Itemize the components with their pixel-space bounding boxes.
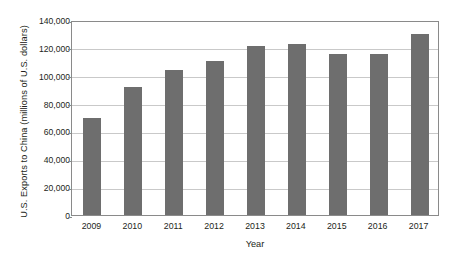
y-axis-tick-label: 140,000 (26, 16, 70, 26)
x-axis-tick-label: 2012 (193, 220, 235, 232)
bar (329, 54, 347, 215)
bars-group (72, 22, 438, 215)
bar (288, 44, 306, 215)
x-axis-tick-label: 2017 (398, 220, 440, 232)
x-axis-tick-labels: 200920102011201220132014201520162017 (71, 220, 439, 234)
x-axis-title: Year (71, 238, 439, 250)
y-axis-tick-labels: 020,00040,00060,00080,000100,000120,0001… (26, 14, 70, 224)
y-axis-tick-label: 60,000 (26, 127, 70, 137)
bar-chart-figure: U.S. Exports to China (millions of U.S. … (0, 0, 460, 265)
plot-area (71, 21, 439, 216)
y-axis-tick-label: 0 (26, 211, 70, 221)
y-axis-tick-label: 100,000 (26, 72, 70, 82)
bar (83, 118, 101, 216)
x-axis-tick-label: 2010 (111, 220, 153, 232)
x-axis-tick-label: 2009 (70, 220, 112, 232)
x-axis-tick-label: 2011 (152, 220, 194, 232)
bar (411, 34, 429, 215)
y-axis-tick-label: 120,000 (26, 44, 70, 54)
x-axis-tick-label: 2014 (275, 220, 317, 232)
x-axis-tick-label: 2015 (316, 220, 358, 232)
bar (247, 46, 265, 215)
bar (124, 87, 142, 215)
bar (165, 70, 183, 215)
y-axis-tick-label: 20,000 (26, 183, 70, 193)
y-axis-tick-mark (68, 217, 72, 218)
bar (370, 54, 388, 215)
y-axis-tick-label: 40,000 (26, 155, 70, 165)
x-axis-tick-label: 2013 (234, 220, 276, 232)
bar (206, 61, 224, 215)
y-axis-tick-label: 80,000 (26, 100, 70, 110)
x-axis-tick-label: 2016 (357, 220, 399, 232)
